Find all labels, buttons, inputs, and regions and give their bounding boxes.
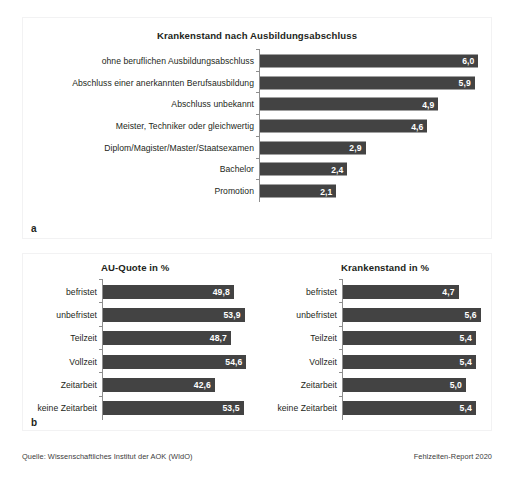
chart-b-left-bar-value: 49,8 — [213, 287, 230, 297]
chart-b-right-category-label: Vollzeit — [258, 357, 342, 367]
chart-b-left-bar-value: 54,6 — [225, 357, 242, 367]
chart-a-bar-value: 6,0 — [462, 56, 474, 66]
chart-b-right-bar-value: 5,4 — [460, 357, 472, 367]
chart-a-bar: 4,6 — [260, 120, 427, 133]
chart-a-row: Diplom/Magister/Master/Staatsexamen2,9 — [23, 137, 493, 159]
chart-a-bar: 6,0 — [260, 54, 478, 67]
chart-a-category-label: Diplom/Magister/Master/Staatsexamen — [23, 143, 259, 153]
chart-a-bar-value: 2,4 — [331, 164, 343, 174]
chart-b-right-rows: befristet4,7unbefristet5,6Teilzeit5,4Vol… — [258, 280, 493, 420]
chart-a-category-label: Bachelor — [23, 164, 259, 174]
chart-b-right-category-label: befristet — [258, 287, 342, 297]
chart-a-bar-value: 4,9 — [422, 99, 434, 109]
chart-b-right-bar: 5,4 — [343, 355, 476, 369]
chart-a-bar-value: 5,9 — [459, 78, 471, 88]
chart-b-right-category-label: keine Zeitarbeit — [258, 403, 342, 413]
chart-a-row: Promotion2,1 — [23, 180, 493, 202]
chart-b-left-plot-area: befristet49,8unbefristet53,9Teilzeit48,7… — [23, 280, 258, 420]
chart-a-axis: 6,0 — [259, 50, 493, 72]
report-note: Fehlzeiten-Report 2020 — [414, 452, 492, 461]
panel-a-letter: a — [31, 223, 37, 234]
chart-b-right-axis: 5,0 — [342, 373, 493, 396]
chart-a-row: Bachelor2,4 — [23, 159, 493, 181]
chart-a-title: Krankenstand nach Ausbildungsabschluss — [23, 30, 491, 41]
chart-a-axis: 4,9 — [259, 93, 493, 115]
chart-a-bar: 5,9 — [260, 76, 475, 89]
chart-a-category-label: Abschluss einer anerkannten Berufsausbil… — [23, 78, 259, 88]
chart-a-plot-area: ohne beruflichen Ausbildungsabschluss6,0… — [23, 50, 493, 202]
chart-b-left-category-label: unbefristet — [23, 310, 102, 320]
chart-a-bar: 2,1 — [260, 185, 336, 198]
chart-b-left-axis: 54,6 — [102, 350, 258, 373]
chart-b-left-row: Zeitarbeit42,6 — [23, 373, 258, 396]
chart-b-left-row: Teilzeit48,7 — [23, 327, 258, 350]
chart-b-left-bar-value: 42,6 — [194, 380, 211, 390]
chart-b-left-category-label: befristet — [23, 287, 102, 297]
chart-b-right-axis: 5,4 — [342, 327, 493, 350]
panel-a: Krankenstand nach Ausbildungsabschluss o… — [22, 17, 492, 239]
chart-b-right-row: unbefristet5,6 — [258, 303, 493, 326]
chart-b-right-axis: 5,4 — [342, 350, 493, 373]
chart-a-category-label: Promotion — [23, 186, 259, 196]
chart-a-axis: 2,9 — [259, 137, 493, 159]
chart-b-left-axis: 49,8 — [102, 280, 258, 303]
chart-a-bar-value: 4,6 — [411, 121, 423, 131]
chart-b-right-axis: 5,6 — [342, 303, 493, 326]
chart-a-axis: 5,9 — [259, 72, 493, 94]
chart-b-right-category-label: Teilzeit — [258, 333, 342, 343]
chart-b-right-bar: 5,0 — [343, 378, 466, 392]
chart-b-right-bar-value: 5,0 — [450, 380, 462, 390]
chart-a-bar-value: 2,1 — [320, 186, 332, 196]
chart-a-row: ohne beruflichen Ausbildungsabschluss6,0 — [23, 50, 493, 72]
chart-b-left-row: unbefristet53,9 — [23, 303, 258, 326]
chart-b-left-bar: 53,5 — [103, 401, 244, 415]
chart-b-left-row: befristet49,8 — [23, 280, 258, 303]
chart-b-right-row: Zeitarbeit5,0 — [258, 373, 493, 396]
chart-b-left-axis: 53,9 — [102, 303, 258, 326]
chart-b-right-bar: 4,7 — [343, 285, 459, 299]
chart-a-bar: 2,9 — [260, 141, 366, 154]
chart-b-right-bar: 5,4 — [343, 331, 476, 345]
chart-b-left-axis: 48,7 — [102, 327, 258, 350]
chart-b-left-bar: 42,6 — [103, 378, 215, 392]
chart-a-category-label: Meister, Techniker oder gleichwertig — [23, 121, 259, 131]
chart-a-row: Abschluss einer anerkannten Berufsausbil… — [23, 72, 493, 94]
chart-b-right-row: Vollzeit5,4 — [258, 350, 493, 373]
chart-b-right-axis: 5,4 — [342, 397, 493, 420]
chart-b-left-axis: 53,5 — [102, 397, 258, 420]
chart-b-right-bar-value: 5,4 — [460, 333, 472, 343]
chart-b-right-category-label: unbefristet — [258, 310, 342, 320]
chart-b-left-bar-value: 53,5 — [222, 403, 239, 413]
chart-b-right-bar-value: 4,7 — [442, 287, 454, 297]
chart-b-right-row: Teilzeit5,4 — [258, 327, 493, 350]
chart-b-left-category-label: Teilzeit — [23, 333, 102, 343]
chart-a-rows: ohne beruflichen Ausbildungsabschluss6,0… — [23, 50, 493, 202]
chart-a-category-label: Abschluss unbekannt — [23, 99, 259, 109]
figure-container: Krankenstand nach Ausbildungsabschluss o… — [0, 0, 513, 490]
chart-a-row: Abschluss unbekannt4,9 — [23, 93, 493, 115]
chart-b-right-plot-area: befristet4,7unbefristet5,6Teilzeit5,4Vol… — [258, 280, 493, 420]
chart-b-left-row: Vollzeit54,6 — [23, 350, 258, 373]
chart-b-left-category-label: Vollzeit — [23, 357, 102, 367]
chart-a-bar: 4,9 — [260, 98, 438, 111]
chart-b-left-rows: befristet49,8unbefristet53,9Teilzeit48,7… — [23, 280, 258, 420]
chart-a-axis: 2,4 — [259, 159, 493, 181]
chart-b-right-row: keine Zeitarbeit5,4 — [258, 397, 493, 420]
chart-b-right-title: Krankenstand in % — [341, 262, 429, 273]
chart-a-category-label: ohne beruflichen Ausbildungsabschluss — [23, 56, 259, 66]
chart-a-bar-value: 2,9 — [349, 143, 361, 153]
chart-b-right-bar-value: 5,6 — [464, 310, 476, 320]
panel-b-letter: b — [31, 417, 37, 428]
chart-b-left-bar: 54,6 — [103, 355, 246, 369]
chart-b-left-bar: 49,8 — [103, 285, 234, 299]
chart-b-left-axis: 42,6 — [102, 373, 258, 396]
chart-b-left-bar-value: 53,9 — [223, 310, 240, 320]
chart-b-left-title: AU-Quote in % — [101, 262, 169, 273]
chart-a-bar: 2,4 — [260, 163, 347, 176]
source-note: Quelle: Wissenschaftliches Institut der … — [22, 452, 193, 461]
chart-b-right-bar: 5,4 — [343, 401, 476, 415]
chart-b-right-row: befristet4,7 — [258, 280, 493, 303]
chart-b-right-bar-value: 5,4 — [460, 403, 472, 413]
chart-b-left-category-label: Zeitarbeit — [23, 380, 102, 390]
chart-a-axis: 2,1 — [259, 180, 493, 202]
